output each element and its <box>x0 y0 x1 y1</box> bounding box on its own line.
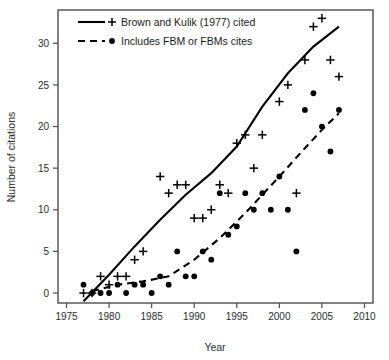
marker-plus <box>335 72 343 80</box>
marker-dot <box>89 290 95 296</box>
marker-dot <box>98 290 104 296</box>
marker-plus <box>275 97 283 105</box>
x-tick-label: 1990 <box>183 311 206 322</box>
marker-plus <box>139 247 147 255</box>
x-tick-label: 2010 <box>353 311 376 322</box>
marker-dot <box>259 190 265 196</box>
x-tick-label: 2000 <box>268 311 291 322</box>
chart-legend: Brown and Kulik (1977) citedIncludes FBM… <box>78 16 255 47</box>
legend-item: Includes FBM or FBMs cites <box>78 35 252 47</box>
marker-dot <box>140 282 146 288</box>
x-tick-label: 2005 <box>311 311 334 322</box>
marker-dot <box>123 290 129 296</box>
x-tick-label: 1975 <box>55 311 78 322</box>
y-tick-label: 0 <box>43 288 49 299</box>
legend-label: Brown and Kulik (1977) cited <box>121 16 255 28</box>
marker-dot <box>183 273 189 279</box>
x-axis-ticks: 19751980198519901995200020052010 <box>55 303 376 322</box>
x-axis-title: Year <box>204 341 226 353</box>
x-tick-label: 1980 <box>98 311 121 322</box>
trend-line-dashed <box>92 113 339 291</box>
marker-plus <box>284 81 292 89</box>
marker-dot <box>251 207 257 213</box>
marker-dot <box>81 282 87 288</box>
marker-plus <box>258 131 266 139</box>
marker-dot <box>217 190 223 196</box>
marker-dot <box>208 257 214 263</box>
plot-frame <box>58 10 373 303</box>
marker-dot <box>328 149 334 155</box>
x-tick-label: 1985 <box>141 311 164 322</box>
y-tick-label: 15 <box>38 163 50 174</box>
marker-dot <box>157 273 163 279</box>
marker-plus <box>130 256 138 264</box>
marker-dot <box>106 290 112 296</box>
y-tick-label: 5 <box>43 246 49 257</box>
y-tick-label: 30 <box>38 38 50 49</box>
marker-dot <box>225 232 231 238</box>
marker-dot <box>336 107 342 113</box>
marker-plus <box>250 164 258 172</box>
chart-canvas: 19751980198519901995200020052010 0510152… <box>0 0 389 360</box>
marker-plus <box>301 56 309 64</box>
marker-plus <box>164 189 172 197</box>
legend-marker-dot <box>109 38 115 44</box>
marker-dot <box>319 124 325 130</box>
legend-label: Includes FBM or FBMs cites <box>121 35 252 47</box>
marker-dot <box>149 290 155 296</box>
marker-dot <box>234 224 240 230</box>
marker-dot <box>285 207 291 213</box>
y-axis-title: Number of citations <box>5 112 17 202</box>
marker-dot <box>302 107 308 113</box>
marker-dot <box>268 207 274 213</box>
marker-plus <box>199 214 207 222</box>
marker-dot <box>242 190 248 196</box>
legend-marker-plus <box>108 18 116 26</box>
marker-plus <box>190 214 198 222</box>
marker-dot <box>115 282 121 288</box>
marker-plus <box>113 272 121 280</box>
marker-dot <box>174 248 180 254</box>
marker-dot <box>200 248 206 254</box>
marker-plus <box>173 181 181 189</box>
marker-plus <box>224 189 232 197</box>
marker-plus <box>156 172 164 180</box>
marker-dot <box>276 174 282 180</box>
marker-plus <box>309 22 317 30</box>
x-tick-label: 1995 <box>226 311 249 322</box>
marker-dot <box>132 282 138 288</box>
marker-dot <box>191 273 197 279</box>
marker-plus <box>216 181 224 189</box>
marker-plus <box>292 189 300 197</box>
y-tick-label: 20 <box>38 121 50 132</box>
marker-plus <box>207 206 215 214</box>
y-tick-label: 10 <box>38 204 50 215</box>
marker-dot <box>311 90 317 96</box>
marker-plus <box>326 56 334 64</box>
y-axis-ticks: 051015202530 <box>38 38 58 299</box>
legend-item: Brown and Kulik (1977) cited <box>78 16 255 28</box>
y-tick-label: 25 <box>38 80 50 91</box>
marker-plus <box>122 272 130 280</box>
marker-dot <box>166 282 172 288</box>
marker-plus <box>182 181 190 189</box>
marker-plus <box>79 289 87 297</box>
marker-dot <box>293 248 299 254</box>
citations-scatter-figure: 19751980198519901995200020052010 0510152… <box>0 0 389 360</box>
marker-plus <box>318 14 326 22</box>
